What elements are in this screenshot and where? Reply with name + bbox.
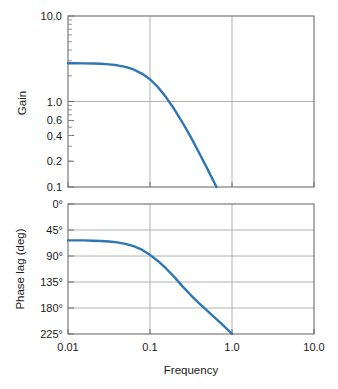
- xtick-0.01: 0.01: [57, 341, 78, 353]
- phase-ytick-135: 135°: [40, 276, 63, 288]
- gain-ytick-0.6: 0.6: [47, 114, 62, 126]
- xtick-0.1: 0.1: [142, 341, 157, 353]
- phase-ytick-0: 0°: [52, 198, 63, 210]
- gain-gridlines: [68, 16, 314, 187]
- phase-ytick-225: 225°: [40, 328, 63, 340]
- gain-curve: [68, 63, 216, 187]
- bode-plot-figure: 10.01.00.60.40.20.1 Gain 0°45°90°135°180…: [0, 0, 338, 389]
- phase-panel: 0°45°90°135°180°225° Phase lag (deg) 0.0…: [14, 198, 325, 376]
- xtick-10.0: 10.0: [303, 341, 324, 353]
- gain-ytick-0.2: 0.2: [47, 155, 62, 167]
- phase-ytick-45: 45°: [46, 224, 63, 236]
- bode-plot-svg: 10.01.00.60.40.20.1 Gain 0°45°90°135°180…: [0, 0, 338, 389]
- gain-panel: 10.01.00.60.40.20.1 Gain: [16, 10, 314, 193]
- phase-y-tick-labels: 0°45°90°135°180°225°: [40, 198, 63, 340]
- xtick-1.0: 1.0: [224, 341, 239, 353]
- phase-axis-title: Phase lag (deg): [14, 228, 26, 309]
- gain-axis-title: Gain: [16, 91, 28, 115]
- gain-y-tick-labels: 10.01.00.60.40.20.1: [41, 10, 62, 193]
- gain-ytick-0.4: 0.4: [47, 130, 62, 142]
- phase-ytick-180: 180°: [40, 302, 63, 314]
- x-axis-title: Frequency: [164, 364, 219, 376]
- x-axis-tick-labels: 0.010.11.010.0: [57, 341, 324, 353]
- phase-tickmarks: [68, 204, 314, 334]
- phase-ytick-90: 90°: [46, 250, 63, 262]
- phase-plot-frame: [68, 204, 314, 334]
- phase-gridlines: [68, 204, 314, 334]
- gain-ytick-10.0: 10.0: [41, 10, 62, 22]
- gain-ytick-1.0: 1.0: [47, 96, 62, 108]
- gain-ytick-0.1: 0.1: [47, 181, 62, 193]
